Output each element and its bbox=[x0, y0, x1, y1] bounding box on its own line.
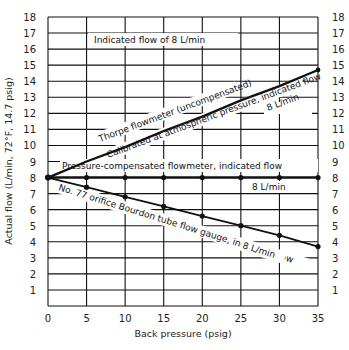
data-point bbox=[315, 244, 320, 249]
y-tick-label-right: 18 bbox=[332, 12, 345, 23]
y-axis-label: Actual flow (L/min, 72°F, 14.7 psig) bbox=[3, 77, 14, 244]
y-tick-label-right: 6 bbox=[332, 205, 338, 216]
y-tick-label-right: 5 bbox=[332, 221, 338, 232]
x-tick-label: 15 bbox=[157, 313, 170, 324]
y-tick-label: 4 bbox=[30, 237, 36, 248]
y-tick-label: 10 bbox=[23, 140, 36, 151]
y-tick-label: 1 bbox=[30, 285, 36, 296]
x-tick-label: 20 bbox=[196, 313, 209, 324]
y-tick-label-right: 9 bbox=[332, 157, 338, 168]
data-point bbox=[84, 175, 89, 180]
flow-chart: 123456789101112131415161718 123456789101… bbox=[0, 0, 349, 350]
thorpe-sublabel: Calibrated at atmospheric pressure, indi… bbox=[105, 71, 322, 160]
header-note: Indicated flow of 8 L/min bbox=[94, 35, 205, 45]
y-tick-label-right: 1 bbox=[332, 285, 338, 296]
y-tick-label: 13 bbox=[23, 92, 36, 103]
y-axis-ticks-right: 123456789101112131415161718 bbox=[332, 12, 345, 296]
data-point bbox=[277, 175, 282, 180]
y-tick-label-right: 15 bbox=[332, 60, 345, 71]
y-tick-label: 5 bbox=[30, 221, 36, 232]
data-point bbox=[238, 223, 243, 228]
data-point bbox=[316, 68, 321, 73]
y-tick-label-right: 2 bbox=[332, 269, 338, 280]
y-tick-label: 18 bbox=[23, 12, 36, 23]
y-tick-label-right: 14 bbox=[332, 76, 345, 87]
y-tick-label: 8 bbox=[30, 173, 36, 184]
y-tick-label: 9 bbox=[30, 157, 36, 168]
x-tick-label: 5 bbox=[83, 313, 89, 324]
y-tick-label-right: 7 bbox=[332, 189, 338, 200]
x-tick-label: 10 bbox=[119, 313, 132, 324]
y-tick-label: 12 bbox=[23, 108, 36, 119]
data-point bbox=[161, 204, 166, 209]
compensated-value: 8 L/min bbox=[252, 182, 286, 192]
x-tick-label: 25 bbox=[234, 313, 247, 324]
y-tick-label: 16 bbox=[23, 44, 36, 55]
compensated-label: Pressure-compensated flowmeter, indicate… bbox=[62, 161, 282, 171]
y-tick-label: 6 bbox=[30, 205, 36, 216]
data-point bbox=[200, 175, 205, 180]
thorpe-annotation-2: Calibrated at atmospheric pressure, indi… bbox=[102, 70, 323, 162]
data-point bbox=[315, 175, 320, 180]
y-tick-label: 14 bbox=[23, 76, 36, 87]
data-point bbox=[200, 213, 205, 218]
y-tick-label-right: 17 bbox=[332, 28, 345, 39]
y-tick-label: 11 bbox=[23, 124, 36, 135]
data-point bbox=[161, 175, 166, 180]
x-axis-ticks: 05101520253035 bbox=[45, 313, 325, 324]
y-tick-label-right: 13 bbox=[332, 92, 345, 103]
x-tick-label: 0 bbox=[45, 313, 51, 324]
y-tick-label: 17 bbox=[23, 28, 36, 39]
x-tick-label: 35 bbox=[312, 313, 325, 324]
y-tick-label-right: 8 bbox=[332, 173, 338, 184]
y-tick-label: 3 bbox=[30, 253, 36, 264]
x-axis-label: Back pressure (psig) bbox=[134, 328, 231, 339]
origin-point bbox=[45, 175, 51, 181]
x-tick-label: 30 bbox=[273, 313, 286, 324]
y-tick-label-right: 3 bbox=[332, 253, 338, 264]
y-tick-label: 15 bbox=[23, 60, 36, 71]
data-point bbox=[277, 233, 282, 238]
data-point bbox=[123, 194, 128, 199]
y-axis-ticks-left: 123456789101112131415161718 bbox=[23, 12, 36, 296]
y-tick-label: 7 bbox=[30, 189, 36, 200]
y-tick-label-right: 16 bbox=[332, 44, 345, 55]
y-tick-label-right: 10 bbox=[332, 140, 345, 151]
y-tick-label-right: 4 bbox=[332, 237, 338, 248]
y-tick-label-right: 11 bbox=[332, 124, 345, 135]
y-tick-label: 2 bbox=[30, 269, 36, 280]
data-point bbox=[123, 175, 128, 180]
y-tick-label-right: 12 bbox=[332, 108, 345, 119]
data-point bbox=[84, 185, 89, 190]
data-point bbox=[238, 175, 243, 180]
